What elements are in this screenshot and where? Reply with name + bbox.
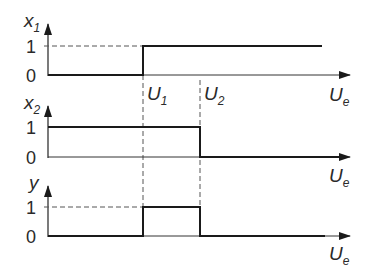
tick-0-x2: 0 bbox=[26, 148, 36, 168]
tick-0-x1: 0 bbox=[26, 66, 36, 86]
y-label-x2: x2 bbox=[23, 92, 41, 117]
plot-x2: x2 1 0 Ue bbox=[23, 92, 350, 190]
tick-1-y: 1 bbox=[26, 198, 36, 218]
x-axis-label-y: Ue bbox=[329, 243, 350, 268]
diagram-canvas: x1 1 0 U1 U2 Ue x2 1 0 Ue y 1 0 Ue bbox=[0, 0, 367, 274]
threshold-u1-label: U1 bbox=[147, 83, 167, 108]
signal-x1 bbox=[48, 46, 322, 75]
plot-y: y 1 0 Ue bbox=[26, 172, 350, 268]
threshold-u2-label: U2 bbox=[204, 83, 225, 108]
plot-x1: x1 1 0 U1 U2 Ue bbox=[23, 10, 350, 109]
tick-1-x2: 1 bbox=[26, 118, 36, 138]
x-axis-label-x1: Ue bbox=[329, 84, 350, 109]
y-label-y: y bbox=[27, 172, 40, 193]
tick-0-y: 0 bbox=[26, 227, 36, 247]
y-label-x1: x1 bbox=[23, 10, 40, 35]
tick-1-x1: 1 bbox=[26, 37, 36, 57]
signal-x2 bbox=[48, 127, 345, 157]
signal-y bbox=[48, 207, 325, 236]
x-axis-label-x2: Ue bbox=[329, 165, 350, 190]
